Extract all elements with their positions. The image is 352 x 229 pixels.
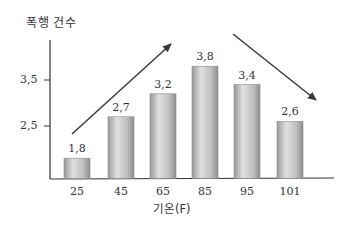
x-axis-label: 기온(F): [153, 200, 191, 216]
bar-value-label: 2,7: [101, 101, 141, 114]
bar-value-label: 3,8: [185, 50, 225, 63]
bar-85: [192, 66, 218, 178]
x-tick-label: 85: [185, 185, 225, 198]
x-tick-label: 95: [227, 185, 267, 198]
x-tick-label: 45: [101, 185, 141, 198]
bar-101: [277, 121, 303, 178]
bar-value-label: 1,8: [57, 142, 97, 155]
x-tick-label: 65: [143, 185, 183, 198]
bar-65: [150, 94, 176, 179]
bar-45: [108, 117, 134, 179]
bar-chart: 폭행 건수 기온(F) 3,5 2,5 2545658595101 1,82,7…: [0, 0, 352, 229]
bar-95: [234, 85, 260, 179]
ytick-label-2-5: 2,5: [20, 119, 38, 132]
bar-value-label: 2,6: [270, 105, 310, 118]
bar-value-label: 3,4: [227, 69, 267, 82]
bar-value-label: 3,2: [143, 78, 183, 91]
bars-group: [64, 66, 303, 178]
ytick-label-3-5: 3,5: [20, 73, 38, 86]
x-tick-label: 101: [270, 185, 310, 198]
y-axis-label: 폭행 건수: [26, 13, 76, 30]
bar-25: [64, 158, 90, 178]
x-tick-label: 25: [57, 185, 97, 198]
